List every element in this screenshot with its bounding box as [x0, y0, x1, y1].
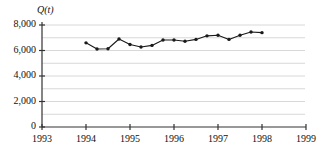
data-point	[260, 31, 263, 34]
data-point	[227, 38, 230, 41]
data-point	[150, 44, 153, 47]
x-tick-label: 1994	[66, 133, 106, 144]
y-tick-label: 0	[31, 120, 36, 131]
gridlines	[42, 25, 305, 114]
data-point	[95, 47, 98, 50]
chart-container: Q(t) 02,0004,0006,0008,000 1993199419951…	[0, 0, 330, 151]
y-axis-label: Q(t)	[37, 4, 54, 15]
data-point	[84, 41, 87, 44]
data-point	[205, 34, 208, 37]
x-tick-label: 1993	[22, 133, 62, 144]
data-point	[249, 30, 252, 33]
chart-plot-svg	[0, 0, 330, 151]
y-tick-label: 2,000	[14, 95, 37, 106]
data-point	[216, 34, 219, 37]
x-tick-label: 1997	[198, 133, 238, 144]
data-point	[194, 38, 197, 41]
data-point	[117, 37, 120, 40]
data-point	[183, 39, 186, 42]
x-tick-label: 1996	[154, 133, 194, 144]
x-tick-label: 1999	[286, 133, 326, 144]
data-point	[139, 45, 142, 48]
x-tick-label: 1995	[110, 133, 150, 144]
data-point	[172, 38, 175, 41]
data-point	[106, 47, 109, 50]
x-tick-label: 1998	[242, 133, 282, 144]
y-tick-label: 8,000	[14, 18, 37, 29]
y-tick-label: 6,000	[14, 44, 37, 55]
data-point	[128, 43, 131, 46]
data-point	[238, 34, 241, 37]
data-point	[161, 38, 164, 41]
data-point-group	[84, 30, 263, 50]
y-tick-label: 4,000	[14, 69, 37, 80]
